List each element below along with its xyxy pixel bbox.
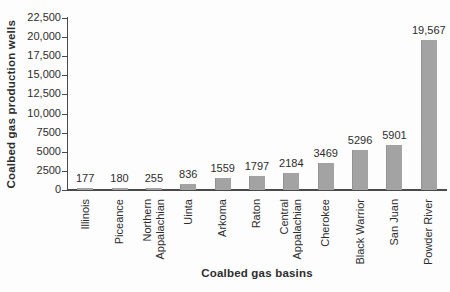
bar-value-label: 255 [145,172,163,184]
bar-value-label: 2184 [279,157,303,169]
x-tick-label-line: Powder River [422,199,435,265]
x-tick-label-line: Black Warrior [354,199,367,265]
bar [386,145,402,190]
plot-area: 17718025583615591797218434695296590119,5… [68,0,446,190]
y-tick-mark [62,56,67,57]
x-tick-label-line: Cherokee [319,199,332,247]
bar-value-label: 1797 [245,160,269,172]
bar [421,40,437,190]
x-tick-label: CentralAppalachian [274,199,308,260]
coalbed-gas-bar-chart: Coalbed gas production wells 22,50020,00… [0,0,450,292]
x-tick-label-line: Illinois [79,199,92,230]
y-axis-title: Coalbed gas production wells [5,20,18,189]
bar-group: 5296 [343,134,377,190]
y-tick-label: 5000 [0,145,61,158]
bar-group: 180 [102,172,136,190]
bar [352,150,368,190]
bar-value-label: 177 [76,172,94,184]
x-tick-label-line: Uinta [182,199,195,225]
y-tick-mark [62,75,67,76]
x-tick-label: Piceance [102,199,136,244]
x-tick-label-line: Northern [141,199,154,260]
y-tick-label: 10,000 [0,107,61,120]
y-tick-mark [62,190,67,191]
bar-group: 2184 [274,157,308,190]
y-tick-label: 15,000 [0,68,61,81]
bar-group: 1797 [240,160,274,190]
x-tick-label: Powder River [412,199,446,265]
bar [215,178,231,190]
y-tick-label: 22,500 [0,11,61,24]
x-axis-title: Coalbed gas basins [68,267,446,279]
bar-group: 19,567 [412,24,446,190]
bar-value-label: 180 [110,172,128,184]
bar [318,163,334,190]
x-axis-labels: IllinoisPiceanceNorthernAppalachianUinta… [68,199,446,267]
y-tick-mark [62,133,67,134]
bar-group: 255 [137,172,171,190]
x-tick-label-line: San Juan [388,199,401,245]
y-tick-mark [62,114,67,115]
y-tick-mark [62,94,67,95]
x-tick-label-line: Arkoma [216,199,229,237]
y-tick-mark [62,18,67,19]
x-tick-label: Illinois [68,199,102,230]
y-tick-label: 2500 [0,164,61,177]
x-tick-label-line: Raton [250,199,263,228]
x-tick-label: NorthernAppalachian [137,199,171,260]
bar-group: 836 [171,168,205,190]
y-tick-label: 0 [0,183,61,196]
bar [283,173,299,190]
y-tick-label: 17,500 [0,49,61,62]
y-tick-label: 7500 [0,126,61,139]
x-tick-label: Cherokee [309,199,343,247]
y-tick-mark [62,37,67,38]
bar-group: 5901 [377,129,411,190]
x-tick-label-line: Central [278,199,291,260]
bar [180,184,196,190]
x-tick-label: Raton [240,199,274,228]
bar-value-label: 1559 [210,162,234,174]
bar-value-label: 836 [179,168,197,180]
bar [77,188,93,190]
x-tick-label-line: Piceance [113,199,126,244]
x-tick-label: Arkoma [205,199,239,237]
y-tick-label: 12,500 [0,87,61,100]
bar-group: 3469 [309,147,343,190]
bar-value-label: 5296 [348,134,372,146]
x-tick-label-line: Appalachian [291,199,304,260]
x-tick-label: San Juan [377,199,411,245]
bar [146,188,162,190]
y-tick-mark [62,152,67,153]
bar [112,188,128,190]
x-tick-label: Uinta [171,199,205,225]
x-tick-label-line: Appalachian [154,199,167,260]
bar [249,176,265,190]
bar-group: 177 [68,172,102,190]
x-tick-label: Black Warrior [343,199,377,265]
y-tick-mark [62,171,67,172]
bar-value-label: 5901 [382,129,406,141]
bar-group: 1559 [205,162,239,190]
bar-value-label: 3469 [313,147,337,159]
bar-value-label: 19,567 [412,24,446,36]
y-tick-label: 20,000 [0,30,61,43]
